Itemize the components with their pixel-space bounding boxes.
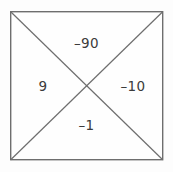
top-cell-value: –90 — [10, 37, 163, 51]
diamond-problem-diagram: –90 9 –10 –1 — [0, 0, 173, 172]
left-cell-value: 9 — [26, 80, 60, 94]
bottom-cell-value: –1 — [10, 119, 163, 133]
right-cell-value: –10 — [110, 80, 156, 94]
